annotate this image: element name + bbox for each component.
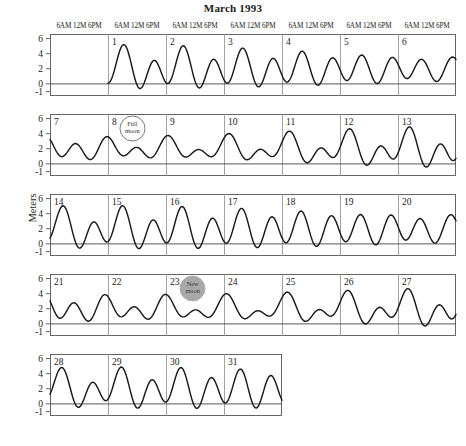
day-label-5: 5 <box>344 37 349 47</box>
day-label-31: 31 <box>228 357 238 367</box>
day-label-8: 8 <box>112 117 117 127</box>
y-tick-label: 6 <box>38 114 43 124</box>
day-label-22: 22 <box>112 277 122 287</box>
y-tick-label: 4 <box>38 209 43 219</box>
page-title: March 1993 <box>0 2 466 14</box>
day-label-6: 6 <box>402 37 407 47</box>
y-tick-label: 6 <box>38 354 43 364</box>
day-label-15: 15 <box>112 197 122 207</box>
day-label-25: 25 <box>286 277 296 287</box>
day-label-9: 9 <box>170 117 175 127</box>
new-moon-circle <box>180 276 205 301</box>
y-tick-label: 2 <box>38 64 43 74</box>
tide-chart: March 1993 Meters 6AM 12M 6PM6AM 12M 6PM… <box>0 0 466 446</box>
tide-row-3: 6420-121222324252627 <box>20 264 460 348</box>
day-label-13: 13 <box>402 117 412 127</box>
y-tick-label: -1 <box>35 407 43 417</box>
full-moon-circle <box>120 116 145 141</box>
day-label-14: 14 <box>54 197 64 207</box>
y-tick-label: 6 <box>38 194 43 204</box>
full-moon-icon <box>119 115 146 142</box>
day-label-3: 3 <box>228 37 233 47</box>
y-tick-label: 4 <box>38 49 43 59</box>
tide-row-4: 6420-128293031 <box>20 344 286 428</box>
y-tick-label: 4 <box>38 129 43 139</box>
y-tick-label: 2 <box>38 224 43 234</box>
y-tick-label: 2 <box>38 144 43 154</box>
day-label-1: 1 <box>112 37 117 47</box>
day-label-7: 7 <box>54 117 59 127</box>
y-tick-label: 4 <box>38 289 43 299</box>
y-tick-label: 4 <box>38 369 43 379</box>
day-label-17: 17 <box>228 197 238 207</box>
y-tick-label: -1 <box>35 87 43 97</box>
y-tick-label: -1 <box>35 247 43 257</box>
day-label-19: 19 <box>344 197 354 207</box>
y-tick-label: 2 <box>38 304 43 314</box>
day-label-26: 26 <box>344 277 354 287</box>
day-label-28: 28 <box>54 357 64 367</box>
day-label-2: 2 <box>170 37 175 47</box>
day-label-10: 10 <box>228 117 238 127</box>
tide-row-0: 6420-1123456 <box>20 24 460 108</box>
new-moon-icon <box>179 275 206 302</box>
day-label-18: 18 <box>286 197 296 207</box>
y-tick-label: 6 <box>38 274 43 284</box>
tide-row-1: 6420-178910111213 <box>20 104 460 188</box>
day-label-29: 29 <box>112 357 122 367</box>
day-label-11: 11 <box>286 117 295 127</box>
y-tick-label: -1 <box>35 167 43 177</box>
day-label-21: 21 <box>54 277 64 287</box>
y-tick-label: 6 <box>38 34 43 44</box>
tide-row-2: 6420-114151617181920 <box>20 184 460 268</box>
day-label-24: 24 <box>228 277 238 287</box>
day-label-20: 20 <box>402 197 412 207</box>
day-label-4: 4 <box>286 37 291 47</box>
day-label-16: 16 <box>170 197 180 207</box>
day-label-30: 30 <box>170 357 180 367</box>
day-label-12: 12 <box>344 117 354 127</box>
y-tick-label: -1 <box>35 327 43 337</box>
y-tick-label: 2 <box>38 384 43 394</box>
day-label-27: 27 <box>402 277 412 287</box>
